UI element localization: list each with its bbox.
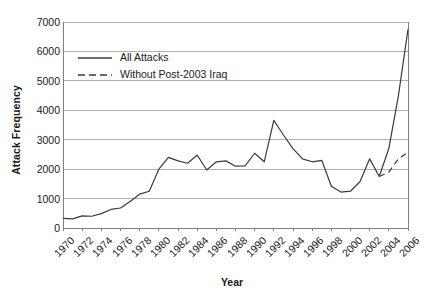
chart-axes xyxy=(63,22,408,231)
gridlines xyxy=(63,22,408,199)
legend-label-2: Without Post-2003 Iraq xyxy=(120,68,227,80)
y-tick-label: 0 xyxy=(14,222,60,234)
y-axis-title: Attack Frequency xyxy=(8,0,20,60)
chart-container: 01000200030004000500060007000 1970197219… xyxy=(0,0,436,299)
legend-label-1: All Attacks xyxy=(120,51,168,63)
data-series xyxy=(63,29,408,219)
x-axis-title: Year xyxy=(0,276,436,288)
series-line-1 xyxy=(63,29,408,219)
y-tick-label: 7000 xyxy=(14,16,60,28)
y-tick-label: 6000 xyxy=(14,45,60,57)
legend-swatches xyxy=(78,58,112,75)
chart-plot-area xyxy=(0,0,436,299)
